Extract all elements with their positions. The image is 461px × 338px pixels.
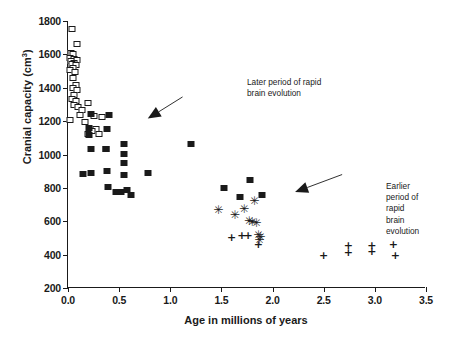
y-tick-label: 800 <box>44 182 61 194</box>
x-tick-label: 1.5 <box>214 294 228 306</box>
y-tick-label: 400 <box>44 249 61 261</box>
y-tick-label: 1400 <box>38 82 61 94</box>
x-tick-mark <box>426 287 427 292</box>
x-tick-label: 1.0 <box>163 294 177 306</box>
y-axis-title-text: Cranial capacity (cm3) <box>21 49 33 164</box>
y-tick-label: 1000 <box>38 149 61 161</box>
x-axis-title: Age in millions of years <box>67 314 425 326</box>
y-tick-label: 1600 <box>38 48 61 60</box>
x-tick-label: 0.5 <box>112 294 126 306</box>
y-tick-label: 200 <box>44 282 61 294</box>
y-tick-label: 1800 <box>38 15 61 27</box>
x-tick-label: 2.0 <box>266 294 280 306</box>
y-tick-label: 1200 <box>38 115 61 127</box>
plot-area: 20040060080010001200140016001800 0.00.51… <box>67 21 425 288</box>
x-tick-label: 3.5 <box>419 294 433 306</box>
annotation-earlier-arrow <box>68 21 426 288</box>
y-axis-title: Cranial capacity (cm3) <box>19 7 33 207</box>
x-tick-label: 3.0 <box>368 294 382 306</box>
x-tick-label: 0.0 <box>61 294 75 306</box>
x-tick-label: 2.5 <box>317 294 331 306</box>
cranial-capacity-scatter-figure: Cranial capacity (cm3) Age in millions o… <box>0 0 461 338</box>
y-tick-label: 600 <box>44 215 61 227</box>
